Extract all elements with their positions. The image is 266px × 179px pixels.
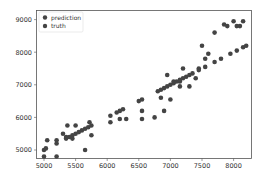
data-point (165, 73, 170, 78)
data-point (190, 71, 195, 76)
data-point (44, 146, 49, 151)
data-point (83, 148, 88, 153)
scatter-chart: 5000550060006500700075008000 50006000700… (0, 0, 266, 179)
data-point (219, 56, 224, 61)
data-point (42, 154, 47, 159)
data-point (235, 24, 240, 29)
data-point (54, 141, 59, 146)
data-point (121, 107, 126, 112)
data-point (140, 97, 145, 102)
y-tick-label: 9000 (15, 16, 32, 24)
legend: prediction truth (39, 12, 83, 32)
data-point (244, 43, 249, 48)
data-point (54, 154, 59, 159)
x-tick-label: 7000 (162, 162, 179, 170)
data-point (212, 30, 217, 35)
data-point (89, 133, 94, 138)
data-point (225, 24, 230, 29)
data-point (187, 84, 192, 89)
legend-label-prediction: prediction (51, 14, 81, 22)
data-point (89, 123, 94, 128)
y-axis: 50006000700080009000 (15, 16, 36, 154)
data-point (206, 52, 211, 57)
x-tick-label: 5000 (36, 162, 53, 170)
data-point (181, 76, 186, 81)
data-point (73, 123, 78, 128)
data-point (203, 65, 208, 70)
data-point (108, 120, 113, 125)
y-tick-label: 6000 (15, 114, 32, 122)
data-point (152, 115, 157, 120)
data-point (168, 97, 173, 102)
data-point (61, 131, 66, 136)
data-point (162, 109, 167, 114)
x-tick-label: 6500 (131, 162, 148, 170)
y-tick-label: 7000 (15, 81, 32, 89)
data-point (124, 117, 129, 122)
x-tick-label: 8000 (225, 162, 242, 170)
data-point (235, 48, 240, 53)
data-point (140, 117, 145, 122)
y-tick-label: 8000 (15, 49, 32, 57)
legend-label-truth: truth (51, 22, 66, 29)
data-point (203, 56, 208, 61)
data-point (200, 43, 205, 48)
data-point (65, 123, 70, 128)
y-tick-label: 5000 (15, 146, 32, 154)
data-point (45, 138, 50, 143)
data-point (181, 66, 186, 71)
x-axis: 5000550060006500700075008000 (36, 159, 242, 170)
legend-marker-truth (43, 24, 47, 28)
data-point (241, 19, 246, 24)
data-point (178, 84, 183, 89)
data-point (228, 52, 233, 57)
data-point (212, 60, 217, 65)
data-point (197, 68, 202, 73)
data-point (108, 114, 113, 119)
data-point (193, 76, 198, 81)
data-point (231, 19, 236, 24)
x-tick-label: 7500 (194, 162, 211, 170)
x-tick-label: 6000 (99, 162, 116, 170)
legend-marker-prediction (43, 15, 47, 19)
x-tick-label: 5500 (67, 162, 84, 170)
data-point (118, 117, 123, 122)
data-point (159, 96, 164, 101)
data-point (140, 109, 145, 114)
